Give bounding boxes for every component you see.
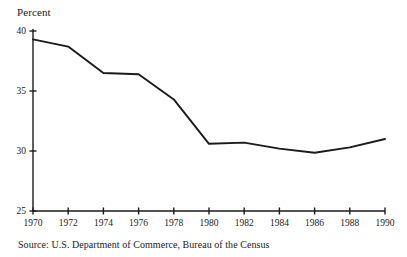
series-line	[33, 39, 385, 152]
line-chart-plot: 25303540 1970197219741976197819801982198…	[0, 0, 407, 257]
chart-axes	[33, 29, 385, 211]
y-tick-label: 35	[17, 86, 27, 96]
x-tick-label: 1970	[24, 218, 43, 228]
x-tick-label: 1980	[200, 218, 219, 228]
source-caption: Source: U.S. Department of Commerce, Bur…	[18, 238, 269, 251]
figure-container: Percent 25303540 19701972197419761978198…	[0, 0, 407, 257]
x-tick-label: 1972	[59, 218, 78, 228]
data-series-line	[33, 39, 385, 152]
y-tick-label: 40	[17, 26, 27, 36]
x-tick-label: 1976	[129, 218, 148, 228]
x-tick-label: 1990	[376, 218, 395, 228]
x-tick-label: 1988	[340, 218, 359, 228]
y-tick-label: 30	[17, 146, 27, 156]
x-tick-label: 1978	[164, 218, 183, 228]
x-tick-label: 1982	[235, 218, 254, 228]
x-tick-label: 1974	[94, 218, 113, 228]
x-tick-label: 1986	[305, 218, 324, 228]
y-tick-label: 25	[17, 206, 27, 216]
x-tick-label: 1984	[270, 218, 289, 228]
